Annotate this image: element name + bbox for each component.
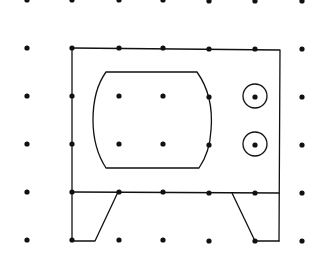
grid-dot <box>24 141 29 146</box>
right-leg <box>232 193 279 241</box>
grid-dot <box>252 0 257 4</box>
grid-dot <box>299 94 304 99</box>
grid-dot <box>116 93 121 98</box>
grid-dot <box>116 141 121 146</box>
grid-dot <box>160 93 165 98</box>
grid-dot <box>160 141 165 146</box>
grid-dot <box>206 0 211 4</box>
grid-dot <box>299 0 304 4</box>
grid-dot <box>299 142 304 147</box>
grid-dot <box>24 189 29 194</box>
grid-dot <box>299 46 304 51</box>
grid-dot <box>116 0 121 3</box>
grid-dots <box>24 0 304 244</box>
grid-dot <box>252 94 257 99</box>
tv-screen <box>93 72 211 168</box>
grid-dot <box>24 45 29 50</box>
grid-dot <box>160 0 165 3</box>
grid-dot <box>252 46 257 51</box>
grid-dot <box>24 0 29 3</box>
grid-dot <box>299 190 304 195</box>
tv-drawing <box>0 0 324 261</box>
grid-dot <box>252 142 257 147</box>
grid-dot <box>206 238 211 243</box>
grid-dot <box>160 237 165 242</box>
grid-dot <box>160 45 165 50</box>
grid-dot <box>24 93 29 98</box>
grid-dot <box>116 237 121 242</box>
grid-dot <box>69 0 74 3</box>
tv-base-divider <box>72 192 279 193</box>
left-leg <box>72 192 118 241</box>
grid-dot <box>299 238 304 243</box>
dot-grid-canvas <box>0 0 324 261</box>
grid-dot <box>24 237 29 242</box>
